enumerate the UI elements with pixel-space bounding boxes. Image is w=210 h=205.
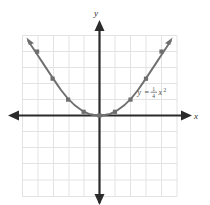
y-axis-arrow-up [95,20,105,31]
point-marker [97,113,101,117]
x-axis-label: x [193,111,198,121]
equation-lhs: y [137,88,142,97]
y-axis-arrow-down [95,194,105,205]
point-marker [82,110,86,114]
equation-equals: = [145,88,150,97]
point-marker [128,98,132,102]
x-axis-arrow-left [8,111,19,121]
point-marker [66,98,70,102]
point-marker [113,110,117,114]
graph-figure: y x y = 1 4 x 2 [0,0,210,205]
coordinate-plane-svg: y x y = 1 4 x 2 [0,0,210,205]
x-axis-arrow-right [181,111,192,121]
point-marker [35,50,39,54]
equation-numerator: 1 [152,86,155,92]
point-marker [144,77,148,81]
point-marker [159,50,163,54]
equation-denominator: 4 [152,93,155,99]
equation-variable: x [158,88,163,97]
y-axis-label: y [93,8,98,18]
point-marker [51,77,55,81]
equation-exponent: 2 [164,87,167,93]
